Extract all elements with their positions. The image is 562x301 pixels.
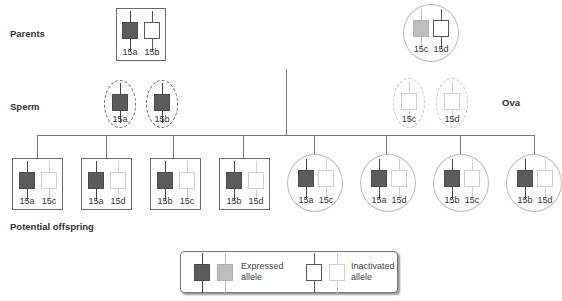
allele-inactivated-icon [391,159,407,199]
offspring-genotype: 15a 15c [287,154,343,212]
allele-label: 15d [387,195,411,205]
offspring-genotype: 15a 15d [81,158,132,210]
branch-drop [314,135,315,155]
allele-label: 15d [106,196,130,206]
allele-label: 15b [222,196,246,206]
legend: Expressed allele Inactivated allele [180,251,398,293]
legend-expressed-light-icon [217,253,233,293]
allele-15c-expressed-icon [413,9,429,49]
allele-label: 15c [175,196,199,206]
allele-inactivated-icon [537,159,553,199]
allele-expressed-icon [444,159,460,199]
allele-inactivated-icon [464,159,480,199]
legend-inactivated-light-icon [329,253,345,293]
branch-drop [243,135,244,158]
offspring-genotype: 15b 15c [433,154,489,212]
allele-inactivated-icon [179,161,195,201]
allele-15b-inactivated-icon [144,11,160,51]
allele-label: 15a [108,114,132,124]
central-connector [286,69,287,135]
allele-label: 15c [37,196,61,206]
allele-inactivated-icon [41,161,57,201]
branch-drop [106,135,107,158]
allele-label: 15a [15,196,39,206]
legend-expressed-label: Expressed allele [241,261,284,283]
legend-inactivated-dark-icon [306,253,322,293]
parents-label: Parents [10,28,45,39]
allele-expressed-icon [517,159,533,199]
allele-label: 15d [533,195,557,205]
branch-drop [534,135,535,155]
branch-drop [37,135,38,158]
allele-expressed-icon [157,161,173,201]
legend-text-line: Expressed [241,261,284,272]
offspring-genotype: 15b 15d [506,154,562,212]
ovum-cell: 15d [436,78,468,128]
allele-label: 15d [429,44,453,54]
offspring-genotype: 15b 15d [219,158,270,210]
allele-label: 15a [118,47,142,57]
branch-drop [386,135,387,155]
legend-text-line: allele [241,272,284,283]
offspring-genotype: 15a 15c [12,158,63,210]
sperm-cell: 15a [104,80,136,128]
branch-drop [460,135,461,155]
sperm-label: Sperm [10,101,40,112]
allele-expressed-icon [371,159,387,199]
branch-drop [173,135,174,158]
allele-label: 15c [314,195,338,205]
allele-label: 15b [153,196,177,206]
legend-text-line: Inactivated [351,261,395,272]
legend-expressed-dark-icon [194,253,210,293]
legend-inactivated-label: Inactivated allele [351,261,395,283]
allele-15d-inactivated-icon [433,9,449,49]
allele-inactivated-icon [110,161,126,201]
allele-expressed-icon [19,161,35,201]
allele-15a-expressed-icon [122,11,138,51]
allele-inactivated-icon [318,159,334,199]
offspring-genotype: 15a 15d [360,154,416,212]
mother-genotype: 15c 15d [403,4,459,62]
allele-expressed-icon [88,161,104,201]
allele-label: 15c [460,195,484,205]
legend-text-line: allele [351,272,395,283]
allele-inactivated-icon [248,161,264,201]
allele-label: 15c [397,114,421,124]
ovum-cell: 15c [393,78,425,128]
father-genotype: 15a 15b [116,8,166,61]
allele-label: 15d [440,114,464,124]
sperm-cell: 15b [146,80,178,128]
allele-expressed-icon [226,161,242,201]
ova-label: Ova [502,97,520,108]
allele-label: 15b [140,47,164,57]
allele-expressed-icon [298,159,314,199]
allele-label: 15b [150,114,174,124]
allele-label: 15a [84,196,108,206]
offspring-genotype: 15b 15c [150,158,201,210]
offspring-label: Potential offspring [10,221,94,232]
allele-label: 15d [244,196,268,206]
